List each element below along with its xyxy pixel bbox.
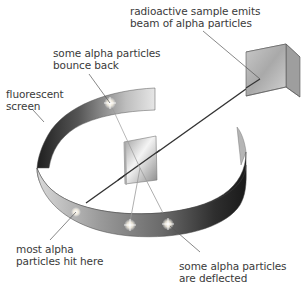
label-radioactive-source: radioactive sample emits beam of alpha p… [130,5,260,29]
label-deflected: some alpha particles are deflected [179,260,286,284]
label-most-particles: most alpha particles hit here [16,243,103,267]
radioactive-source-cube [246,44,300,106]
label-bounce-back: some alpha particles bounce back [53,47,160,71]
label-fluorescent-screen: fluorescent screen [6,88,64,112]
fluorescent-screen-right-sliver [237,127,246,165]
